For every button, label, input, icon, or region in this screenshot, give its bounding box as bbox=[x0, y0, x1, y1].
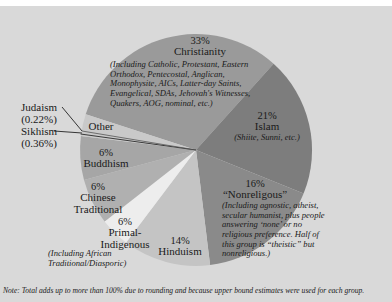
label-islam: 21% Islam (Shiite, Sunni, etc.) bbox=[222, 110, 312, 142]
label-nonreligious: 16% “Nonreligous” bbox=[200, 178, 310, 201]
label-primal-indigenous: 6% Primal- Indigenous bbox=[90, 216, 160, 250]
judaism-name: Judaism bbox=[14, 102, 64, 114]
nonreligious-description: (Including agnostic, atheist, secular hu… bbox=[222, 201, 332, 259]
primal-description: (Including African Traditional/Diasporic… bbox=[48, 249, 138, 268]
buddhism-name: Buddhism bbox=[76, 158, 136, 170]
judaism-percent: (0.22%) bbox=[14, 114, 64, 126]
primal-desc-line: Traditional/Diasporic) bbox=[48, 259, 138, 269]
primal-name-line1: Primal- bbox=[90, 227, 160, 239]
footnote: Note: Total adds up to more than 100% du… bbox=[3, 286, 392, 295]
leader-line-judaism bbox=[62, 107, 82, 131]
label-chinese-traditional: 6% Chinese Traditional bbox=[68, 181, 128, 215]
nonreligious-name: “Nonreligous” bbox=[200, 189, 310, 201]
sikhism-percent: (0.36%) bbox=[14, 138, 64, 150]
nonreligious-desc-line: nonreligious.) bbox=[222, 249, 332, 259]
christianity-description: (Including Catholic, Protestant, Eastern… bbox=[110, 60, 270, 108]
chinese-name-line2: Traditional bbox=[68, 204, 128, 216]
islam-description: (Shiite, Sunni, etc.) bbox=[222, 133, 312, 143]
islam-name: Islam bbox=[222, 121, 312, 133]
label-judaism: Judaism (0.22%) bbox=[14, 102, 64, 125]
chinese-name-line1: Chinese bbox=[68, 192, 128, 204]
sikhism-name: Sikhism bbox=[14, 126, 64, 138]
label-other: Other bbox=[84, 121, 118, 133]
label-christianity: 33% Christianity bbox=[100, 35, 300, 58]
christianity-desc-line: Quakers, AOG, nominal, etc.) bbox=[110, 99, 270, 109]
label-buddhism: 6% Buddhism bbox=[76, 147, 136, 170]
label-sikhism: Sikhism (0.36%) bbox=[14, 126, 64, 149]
christianity-name: Christianity bbox=[100, 46, 300, 58]
